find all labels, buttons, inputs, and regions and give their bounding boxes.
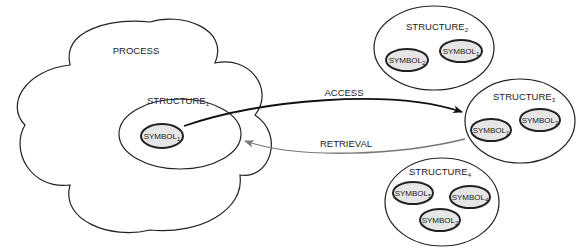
structure-1: STRUCTURE1 SYMBOL1	[119, 95, 241, 169]
access-arrow: ACCESS	[184, 87, 462, 126]
structure-3: STRUCTURE3 SYMBOL1 SYMBOL3	[465, 79, 575, 163]
structure-4-symbol-4: SYMBOL4	[450, 186, 490, 208]
retrieval-arrow: RETRIEVAL	[245, 138, 465, 153]
svg-text:STRUCTURE3: STRUCTURE3	[493, 91, 556, 103]
structure-1-label: STRUCTURE1	[147, 95, 210, 107]
svg-text:SYMBOL5: SYMBOL5	[395, 189, 432, 199]
svg-text:STRUCTURE2: STRUCTURE2	[406, 21, 469, 33]
svg-text:SYMBOL2: SYMBOL2	[389, 56, 426, 66]
structure-2: STRUCTURE2 SYMBOL2 SYMBOL1	[374, 6, 494, 90]
svg-text:SYMBOL1: SYMBOL1	[443, 47, 480, 57]
structure-2-symbol-1: SYMBOL1	[440, 40, 482, 62]
structure-3-symbol-3: SYMBOL3	[520, 109, 560, 131]
svg-text:SYMBOL1: SYMBOL1	[473, 126, 510, 136]
process-label: PROCESS	[113, 45, 159, 56]
diagram-canvas: PROCESS STRUCTURE1 SYMBOL1 STRUCTURE2 SY…	[0, 0, 577, 250]
svg-text:SYMBOL4: SYMBOL4	[452, 193, 489, 203]
svg-text:SYMBOL2: SYMBOL2	[422, 216, 459, 226]
svg-text:SYMBOL3: SYMBOL3	[522, 116, 559, 126]
structure-4: STRUCTURE4 SYMBOL5 SYMBOL4 SYMBOL2	[385, 158, 499, 246]
access-label: ACCESS	[324, 87, 363, 98]
retrieval-label: RETRIEVAL	[320, 138, 372, 149]
svg-text:SYMBOL1: SYMBOL1	[144, 132, 181, 142]
structure-3-symbol-1: SYMBOL1	[471, 119, 511, 141]
process-cloud: PROCESS	[17, 19, 271, 233]
svg-text:STRUCTURE4: STRUCTURE4	[409, 166, 472, 178]
structure-4-symbol-5: SYMBOL5	[393, 182, 433, 204]
structure-1-symbol-1: SYMBOL1	[141, 124, 183, 148]
structure-4-symbol-2: SYMBOL2	[420, 209, 460, 231]
structure-2-symbol-2: SYMBOL2	[386, 49, 428, 71]
